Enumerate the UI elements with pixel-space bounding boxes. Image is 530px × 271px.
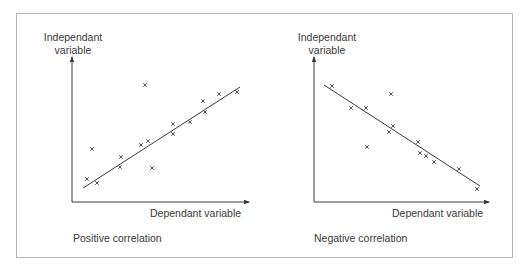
right-y-axis-label: Independant variable: [282, 31, 372, 57]
data-point-x-marker: [139, 143, 143, 147]
data-point-x-marker: [146, 139, 150, 143]
data-point-x-marker: [475, 187, 479, 191]
y-label-line2: variable: [28, 44, 118, 57]
data-point-x-marker: [387, 130, 391, 134]
data-point-x-marker: [217, 92, 221, 96]
data-point-x-marker: [143, 83, 147, 87]
data-point-x-marker: [424, 154, 428, 158]
data-point-x-marker: [330, 84, 334, 88]
data-point-x-marker: [416, 140, 420, 144]
data-point-x-marker: [418, 151, 422, 155]
data-point-x-marker: [171, 122, 175, 126]
data-point-x-marker: [432, 160, 436, 164]
data-point-x-marker: [90, 147, 94, 151]
trend-line: [324, 85, 480, 186]
data-point-x-marker: [150, 166, 154, 170]
data-point-x-marker: [235, 90, 239, 94]
right-x-axis-label: Dependant variable: [392, 207, 483, 220]
data-point-x-marker: [203, 110, 207, 114]
data-point-x-marker: [364, 106, 368, 110]
data-point-x-marker: [391, 124, 395, 128]
data-point-x-marker: [389, 92, 393, 96]
y-label-line2: variable: [282, 44, 372, 57]
data-point-x-marker: [457, 167, 461, 171]
right-caption: Negative correlation: [314, 232, 407, 245]
data-point-x-marker: [365, 145, 369, 149]
data-point-x-marker: [118, 165, 122, 169]
trend-line: [83, 87, 240, 188]
data-point-x-marker: [119, 155, 123, 159]
data-point-x-marker: [188, 120, 192, 124]
left-y-axis-label: Independant variable: [28, 31, 118, 57]
data-point-x-marker: [201, 99, 205, 103]
data-point-x-marker: [171, 132, 175, 136]
data-points: [85, 83, 239, 185]
data-point-x-marker: [349, 106, 353, 110]
data-point-x-marker: [85, 177, 89, 181]
y-label-line1: Independant: [282, 31, 372, 44]
left-x-axis-label: Dependant variable: [150, 207, 241, 220]
y-label-line1: Independant: [28, 31, 118, 44]
positive-correlation-plot: [72, 57, 249, 202]
data-point-x-marker: [95, 181, 99, 185]
left-caption: Positive correlation: [73, 232, 162, 245]
negative-correlation-plot: [314, 57, 489, 202]
